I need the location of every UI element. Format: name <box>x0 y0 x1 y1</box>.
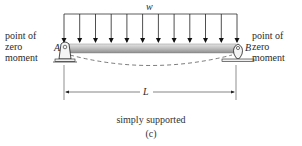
right-annotation-line-3: moment <box>252 52 285 63</box>
left-annotation-line-1: point of <box>5 30 38 41</box>
span-label: L <box>143 87 149 97</box>
left-annotation: point of zero moment <box>5 30 38 63</box>
right-annotation-line-2: zero <box>252 41 285 52</box>
span-dimension <box>64 65 236 100</box>
support-a-label: A <box>54 43 60 53</box>
subfigure-label: (c) <box>0 128 302 139</box>
deflected-shape-curve <box>70 55 232 66</box>
distributed-load <box>62 14 240 43</box>
left-annotation-line-2: zero <box>5 41 38 52</box>
right-annotation-line-1: point of <box>252 30 285 41</box>
load-label: w <box>146 2 153 12</box>
left-annotation-line-3: moment <box>5 52 38 63</box>
support-b-label: B <box>245 43 251 53</box>
caption: simply supported <box>0 114 302 125</box>
right-annotation: point of zero moment <box>252 30 285 63</box>
beam <box>64 44 236 53</box>
